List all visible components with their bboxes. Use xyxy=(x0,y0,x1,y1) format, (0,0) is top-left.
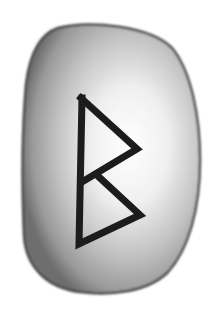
stone xyxy=(23,25,200,294)
rune-stone-illustration xyxy=(0,0,222,318)
